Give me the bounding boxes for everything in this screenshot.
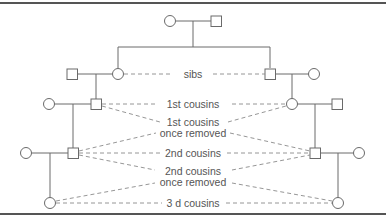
male-icon [68,148,79,159]
label-second-cousins-once-removed-2: once removed [160,176,227,188]
female-icon [21,148,32,159]
label-sibs: sibs [184,68,203,80]
female-icon [333,198,344,209]
female-icon [113,69,124,80]
label-third-cousins: 3 d cousins [166,197,219,209]
female-icon [165,16,176,27]
female-icon [44,99,55,110]
label-second-cousins: 2nd cousins [165,147,221,159]
female-icon [287,99,298,110]
generation-1 [118,16,270,69]
male-icon [211,16,222,27]
pedigree-diagram: sibs 1st cousins 1st cousins once remove… [0,0,386,220]
male-icon [332,99,343,110]
female-icon [309,69,320,80]
male-icon [265,69,276,80]
label-first-cousins: 1st cousins [167,98,220,110]
male-icon [91,99,102,110]
female-icon [354,148,365,159]
male-icon [67,69,78,80]
label-first-cousins-once-removed-2: once removed [160,127,227,139]
female-icon [45,198,56,209]
male-icon [310,148,321,159]
